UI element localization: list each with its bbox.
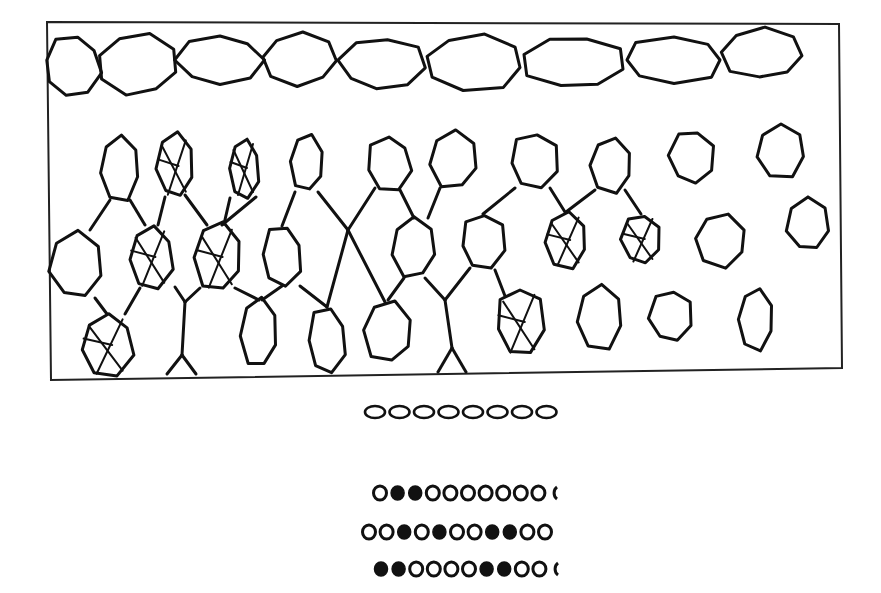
cell [309,309,345,373]
marked-cell [621,217,660,263]
open-dot [462,486,475,500]
connector-line [425,278,445,300]
open-dot [532,486,545,500]
open-dot [514,486,527,500]
open-dot [521,525,534,539]
cell [369,137,412,190]
filled-dot [433,525,446,539]
open-dot [463,562,476,576]
partial-dot [554,487,557,499]
connector-line [438,348,452,372]
marked-cell [498,290,544,353]
cell [263,228,300,286]
connector-line [566,190,595,212]
open-dot [380,525,393,539]
open-dot [533,562,546,576]
cell [577,284,620,349]
connector-line [182,302,185,355]
cell-outline [309,309,345,373]
filled-dot [375,562,388,576]
top-row-cells [47,27,802,95]
connector-line [158,197,165,225]
top-cell [627,37,720,84]
connector-line [348,188,375,230]
cell [364,301,411,360]
cell-outline [786,197,828,248]
cell-outline [263,228,300,286]
top-cell [263,32,337,87]
small-ellipse [488,406,508,418]
connector-line [282,192,295,226]
cell [512,135,557,188]
connector-line [182,355,196,374]
connector-line [495,270,505,296]
open-dot [415,525,428,539]
filled-dot [391,486,404,500]
cell-outline [512,135,557,188]
cell [430,130,476,187]
cell [463,216,505,268]
dot-row [375,562,559,576]
connector-line [428,188,440,218]
connector-line [90,200,110,230]
filled-dot [486,525,499,539]
connector-line [550,188,565,212]
connector-line [95,298,107,314]
connector-line [452,348,466,372]
cell-cross-line [503,302,534,350]
cell-outline [430,130,476,187]
filled-dot [392,562,405,576]
connector-line [300,286,327,307]
cell-outline [130,226,173,289]
cell-outline [668,133,713,183]
cell-outline [590,138,629,193]
marked-cell [545,212,584,269]
connector-line [175,287,185,302]
small-ellipse [414,406,434,418]
cell [757,124,803,177]
cell-diagram [0,0,881,593]
open-dot [410,562,423,576]
open-dot [539,525,552,539]
small-ellipse [365,406,385,418]
cell-outline [738,289,771,351]
top-cell [47,37,102,95]
open-dot [444,486,457,500]
small-ellipse [439,406,459,418]
cell-outline [230,139,259,198]
small-ellipse [390,406,410,418]
partial-dot [555,563,558,575]
connector-line [185,288,200,302]
cell-outline [463,216,505,268]
cell-outline [696,214,745,268]
cell [668,133,713,183]
cell [648,292,691,340]
lower-cell-network [49,124,829,376]
open-dot [497,486,510,500]
connector-line [318,192,348,230]
connector-line [327,230,348,307]
open-dot [427,562,440,576]
diagram-frame [47,22,842,380]
filled-dot [503,525,516,539]
open-dot [468,525,481,539]
frame-border [47,22,842,380]
connector-line [445,300,452,348]
cell-outline [101,135,138,200]
cell-outline [392,217,435,277]
connector-line [235,288,259,300]
connector-line [445,268,470,300]
connector-line [348,230,385,302]
small-ellipse [537,406,557,418]
cell-outline [369,137,412,190]
open-dot [374,486,387,500]
top-cell [338,40,425,89]
cell [696,214,745,268]
connector-line [400,190,414,218]
cell-outline [240,297,275,363]
ellipse-row [365,406,557,418]
cell-outline [49,230,101,295]
marked-cell [130,226,173,289]
filled-dot [409,486,422,500]
open-dot [426,486,439,500]
